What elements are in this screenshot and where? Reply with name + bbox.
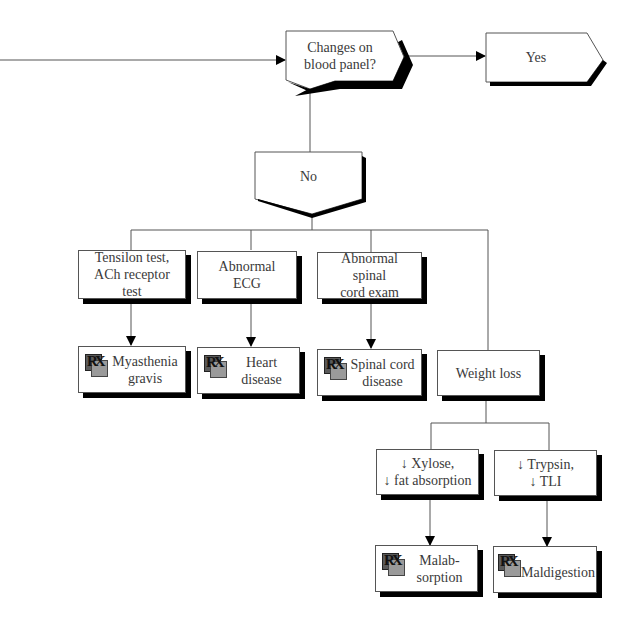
diagnosis-label-line: Malab- [404, 552, 475, 569]
test-label-line: Tensilon test, [94, 249, 170, 266]
decision-label: Changes on blood panel? [286, 39, 394, 73]
diagnosis-label-line: Myasthenia [107, 353, 183, 370]
connector-lines [0, 0, 636, 629]
diagnosis-label-line: gravis [107, 370, 183, 387]
test-box-ecg: Abnormal ECG [197, 251, 297, 299]
rx-icon: RX [382, 553, 404, 575]
test-box-spinal-exam: Abnormal spinal cord exam [317, 252, 422, 299]
rx-icon: RX [324, 357, 346, 379]
diagnosis-box-spinal: RX Spinal cord disease [317, 349, 422, 396]
test-label-line: ↓ Xylose, [384, 455, 472, 472]
test-box-trypsin: ↓ Trypsin, ↓ TLI [494, 450, 597, 496]
no-label: No [255, 168, 362, 185]
diagnosis-label-line: disease [346, 373, 419, 390]
test-label-line: ↓ TLI [517, 473, 574, 490]
weight-loss-label: Weight loss [456, 365, 521, 382]
test-label-line: test [94, 283, 170, 300]
test-label-line: ↓ fat absorption [384, 472, 472, 489]
test-box-tensilon: Tensilon test, ACh receptor test [78, 250, 186, 299]
diagnosis-label-line: disease [226, 371, 297, 388]
test-box-xylose: ↓ Xylose, ↓ fat absorption [376, 449, 479, 495]
test-label-line: cord exam [340, 284, 399, 301]
rx-icon: RX [498, 554, 520, 576]
weight-loss-box: Weight loss [437, 350, 540, 396]
diagnosis-box-maldigestion: RX Maldigestion [493, 546, 597, 593]
yes-label: Yes [486, 49, 586, 66]
test-label-line: spinal [340, 267, 399, 284]
no-shape [255, 152, 366, 218]
test-label-line: ACh receptor [94, 266, 170, 283]
diagnosis-box-malabsorption: RX Malab- sorption [375, 545, 478, 592]
rx-icon: RX [85, 354, 107, 376]
test-label-line: Abnormal [219, 258, 276, 275]
rx-icon: RX [204, 355, 226, 377]
test-label-line: ECG [219, 275, 276, 292]
diagnosis-label-line: Maldigestion [520, 564, 596, 581]
test-label-line: ↓ Trypsin, [517, 456, 574, 473]
diagnosis-box-myasthenia: RX Myasthenia gravis [78, 346, 186, 393]
test-label-line: Abnormal [340, 250, 399, 267]
diagnosis-label-line: sorption [404, 569, 475, 586]
diagnosis-label-line: Heart [226, 354, 297, 371]
diagnosis-label-line: Spinal cord [346, 356, 419, 373]
decision-label-line1: Changes on [286, 39, 394, 56]
decision-label-line2: blood panel? [286, 56, 394, 73]
diagnosis-box-heart: RX Heart disease [197, 347, 300, 394]
